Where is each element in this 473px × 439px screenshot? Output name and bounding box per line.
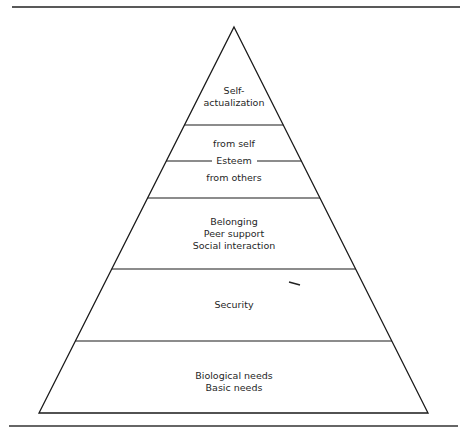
- level-label: Belonging: [193, 216, 276, 228]
- pen-mark: [289, 282, 300, 285]
- level-esteem-divider-label: Esteem: [214, 155, 254, 166]
- level-security: Security: [214, 299, 253, 311]
- level-esteem-from-self: from self: [213, 138, 255, 150]
- level-esteem-from-others: from others: [206, 172, 261, 184]
- level-label: Security: [214, 299, 253, 311]
- pyramid-diagram: Self- actualization from self Esteem fro…: [0, 0, 473, 439]
- level-label: Basic needs: [195, 382, 272, 394]
- level-self-actualization: Self- actualization: [204, 85, 265, 109]
- level-label: actualization: [204, 97, 265, 109]
- level-label: Self-: [204, 85, 265, 97]
- level-label: Esteem: [216, 155, 252, 166]
- level-label: Social interaction: [193, 240, 276, 252]
- level-label: from others: [206, 172, 261, 184]
- level-label: Peer support: [193, 228, 276, 240]
- level-biological: Biological needs Basic needs: [195, 370, 272, 394]
- level-label: from self: [213, 138, 255, 150]
- level-belonging: Belonging Peer support Social interactio…: [193, 216, 276, 252]
- level-label: Biological needs: [195, 370, 272, 382]
